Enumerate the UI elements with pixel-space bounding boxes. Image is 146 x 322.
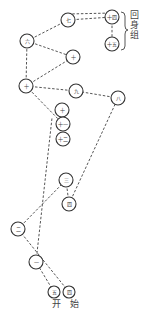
group-bracket	[0, 0, 146, 322]
group-label: 回身组	[129, 10, 139, 40]
start-label: 开 始	[52, 299, 82, 309]
